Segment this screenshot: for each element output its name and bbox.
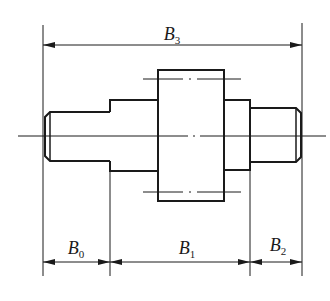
label-b2: B2 (270, 235, 287, 257)
label-b3: B3 (164, 24, 181, 46)
right-shoulder (224, 100, 250, 170)
shaft-drawing: B3 B0 B1 B2 (0, 0, 330, 301)
label-b0: B0 (68, 238, 85, 260)
extension-lines (43, 23, 302, 276)
dimension-b1: B1 (110, 238, 250, 262)
dimension-b2: B2 (250, 235, 302, 262)
dimension-b3: B3 (43, 24, 302, 46)
dimension-b0: B0 (43, 238, 110, 262)
label-b1: B1 (179, 238, 196, 260)
right-journal (250, 108, 301, 162)
